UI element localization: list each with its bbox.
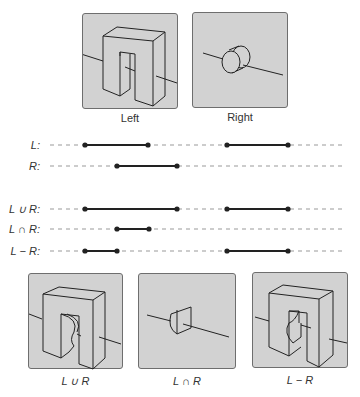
- endpoint-dot: [285, 206, 290, 211]
- endpoint-dot: [174, 206, 179, 211]
- u-block-icon: [83, 14, 179, 110]
- endpoint-dot: [224, 248, 229, 253]
- cylinder-icon: [193, 13, 289, 109]
- union-caption: L ∪ R: [28, 375, 123, 388]
- difference-caption: L − R: [252, 374, 348, 386]
- difference-solid-panel: [252, 272, 348, 368]
- left-solid-panel: [82, 13, 178, 109]
- right-solid-panel: [192, 12, 288, 108]
- union-solid-panel: [28, 273, 123, 369]
- difference-shape-icon: [253, 273, 349, 369]
- intersection-shape-icon: [139, 274, 237, 370]
- endpoint-dot: [114, 163, 119, 168]
- endpoint-dot: [114, 248, 119, 253]
- endpoint-dot: [174, 163, 179, 168]
- endpoint-dot: [224, 142, 229, 147]
- right-caption: Right: [192, 111, 288, 123]
- endpoint-dot: [285, 248, 290, 253]
- endpoint-dot: [224, 206, 229, 211]
- endpoint-dot: [82, 142, 87, 147]
- interval-diagram: [0, 130, 360, 260]
- endpoint-dot: [82, 206, 87, 211]
- endpoint-dot: [114, 226, 119, 231]
- intersection-caption: L ∩ R: [138, 375, 236, 387]
- intersection-solid-panel: [138, 273, 236, 369]
- left-caption: Left: [82, 112, 178, 124]
- endpoint-dot: [145, 142, 150, 147]
- endpoint-dot: [82, 248, 87, 253]
- endpoint-dot: [146, 226, 151, 231]
- union-shape-icon: [29, 274, 124, 370]
- endpoint-dot: [285, 142, 290, 147]
